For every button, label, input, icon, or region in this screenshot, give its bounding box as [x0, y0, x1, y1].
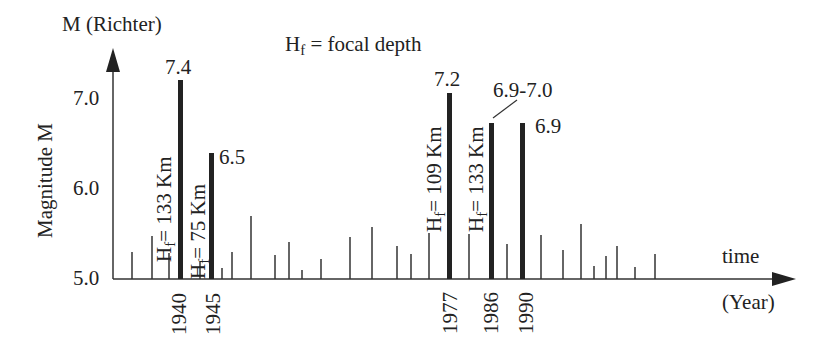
value-1945: 6.5 [219, 147, 245, 168]
y-tick-7: 7.0 [73, 88, 99, 109]
y-tick-6: 6.0 [73, 178, 99, 199]
value-1990: 6.9 [535, 116, 561, 137]
value-1940: 7.4 [165, 57, 191, 78]
year-1945: 1945 [203, 293, 224, 335]
depth-1940: Hf= 133 Km [154, 156, 175, 262]
depth-1977: Hf= 109 Km [424, 126, 445, 232]
bar-1990 [520, 123, 525, 279]
x-axis-label-year: (Year) [722, 292, 775, 313]
y-axis-title: M (Richter) [62, 14, 162, 35]
focal-depth-note: Hf = focal depth [285, 34, 421, 55]
x-axis-label-time: time [722, 246, 759, 267]
leader-line-1986 [493, 100, 517, 118]
hf-symbol: H [285, 32, 300, 56]
bar-1986 [489, 123, 494, 279]
bar-1940 [178, 80, 183, 279]
y-axis-label: Magnitude M [35, 123, 56, 238]
x-axis-arrow-icon [772, 272, 796, 286]
year-1990: 1990 [516, 292, 537, 334]
year-1986: 1986 [481, 292, 502, 334]
bar-1977 [447, 93, 452, 279]
value-1986: 6.9-7.0 [493, 80, 553, 101]
y-tick-5: 5.0 [73, 268, 99, 289]
y-axis-arrow-icon [106, 48, 120, 72]
depth-1945: Hf= 75 Km [188, 184, 209, 279]
depth-1986: Hf= 133 Km [466, 126, 487, 232]
hf-text: = focal depth [310, 32, 421, 56]
year-1977: 1977 [440, 292, 461, 334]
value-1977: 7.2 [434, 69, 460, 90]
year-1940: 1940 [169, 293, 190, 335]
